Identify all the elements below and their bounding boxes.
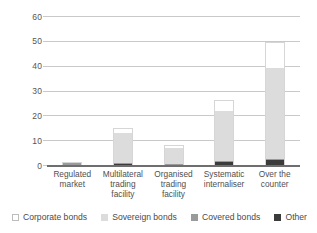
x-axis-labels: RegulatedmarketMultilateraltradingfacili… (47, 169, 300, 205)
bar-segment-sovereign-bonds (265, 68, 285, 159)
bar-segment-sovereign-bonds (164, 148, 184, 164)
bar-segment-sovereign-bonds (113, 133, 133, 164)
y-tick-label: 10 (18, 137, 42, 146)
bar-segment-corporate-bonds (265, 42, 285, 68)
x-axis-label-line: trading (148, 179, 199, 189)
y-tick-label: 50 (18, 37, 42, 46)
x-axis-label-line: Regulated (47, 169, 98, 179)
y-tick-label: 20 (18, 112, 42, 121)
swatch-covered-icon (191, 214, 198, 221)
legend-item-other[interactable]: Other (274, 213, 307, 222)
legend-item-corporate-bonds[interactable]: Corporate bonds (12, 213, 87, 222)
y-tick-label: 0 (18, 162, 42, 171)
legend-label: Corporate bonds (23, 213, 87, 222)
x-axis-label-4: Systematicinternaliser (199, 169, 250, 189)
stacked-bar-chart: 0102030405060 RegulatedmarketMultilatera… (0, 0, 317, 233)
x-axis-label-line: market (47, 179, 98, 189)
x-axis-label-5: Over thecounter (249, 169, 300, 189)
x-axis-label-line: Over the (249, 169, 300, 179)
bar-4 (214, 100, 234, 166)
y-tick-label: 30 (18, 87, 42, 96)
x-axis-label-line: trading (98, 179, 149, 189)
x-axis-label-line: internaliser (199, 179, 250, 189)
swatch-other-icon (274, 214, 281, 221)
x-axis-label-line: facility (148, 189, 199, 199)
legend-label: Other (285, 213, 307, 222)
legend-item-covered-bonds[interactable]: Covered bonds (191, 213, 260, 222)
bar-segment-sovereign-bonds (214, 111, 234, 161)
x-axis-label-2: Multilateraltradingfacility (98, 169, 149, 200)
plot-area (47, 17, 300, 166)
x-axis-label-3: Organisedtradingfacility (148, 169, 199, 200)
swatch-sovereign-icon (101, 214, 108, 221)
x-axis-label-line: Multilateral (98, 169, 149, 179)
bar-2 (113, 128, 133, 166)
x-axis-label-line: Organised (148, 169, 199, 179)
bar-3 (164, 145, 184, 166)
y-tick-label: 40 (18, 62, 42, 71)
x-axis-label-line: counter (249, 179, 300, 189)
bar-5 (265, 42, 285, 166)
legend-label: Covered bonds (202, 213, 260, 222)
bars-layer (47, 17, 300, 166)
x-axis-label-line: facility (98, 189, 149, 199)
x-axis-label-line: Systematic (199, 169, 250, 179)
legend-label: Sovereign bonds (112, 213, 177, 222)
legend-item-sovereign-bonds[interactable]: Sovereign bonds (101, 213, 177, 222)
chart-legend: Corporate bondsSovereign bondsCovered bo… (12, 210, 307, 224)
x-axis-baseline (47, 165, 300, 167)
bar-segment-corporate-bonds (214, 100, 234, 111)
y-tick-label: 60 (18, 13, 42, 22)
x-axis-label-1: Regulatedmarket (47, 169, 98, 189)
swatch-corporate-icon (12, 214, 19, 221)
